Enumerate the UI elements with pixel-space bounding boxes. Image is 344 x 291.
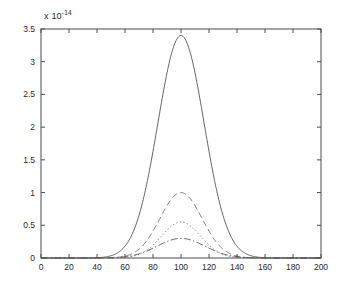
x-tick-label: 140: [225, 262, 249, 272]
y-tick-label: 1: [13, 188, 35, 198]
x-tick-label: 120: [197, 262, 221, 272]
x-tick-label: 100: [169, 262, 193, 272]
y-tick-label: 3.5: [13, 24, 35, 34]
x-tick-label: 180: [281, 262, 305, 272]
plot-background: [0, 0, 344, 291]
chart-plot-area: [0, 0, 344, 291]
y-tick-label: 1.5: [13, 155, 35, 165]
y-tick-label: 0.5: [13, 220, 35, 230]
x-tick-label: 0: [29, 262, 53, 272]
x-tick-label: 80: [141, 262, 165, 272]
y-axis-exponent-label: x 10-14: [44, 11, 72, 21]
figure-canvas: x 10-14 00.511.522.533.5 020406080100120…: [0, 0, 344, 291]
y-tick-label: 2: [13, 122, 35, 132]
x-tick-label: 20: [57, 262, 81, 272]
exponent-power: -14: [62, 9, 72, 16]
x-tick-label: 40: [85, 262, 109, 272]
x-tick-label: 160: [253, 262, 277, 272]
x-tick-label: 200: [309, 262, 333, 272]
y-tick-label: 3: [13, 57, 35, 67]
y-tick-label: 2.5: [13, 89, 35, 99]
exponent-multiplier: x 10: [44, 11, 62, 21]
x-tick-label: 60: [113, 262, 137, 272]
